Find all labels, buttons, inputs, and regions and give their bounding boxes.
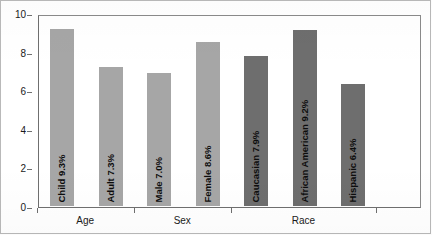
x-axis-group-separator: [376, 208, 377, 213]
bar-chart-figure: 0246810 Child 9.3%Adult 7.3%Male 7.0%Fem…: [0, 0, 432, 235]
y-axis-tick-label: 0: [20, 202, 26, 214]
bar: Male 7.0%: [146, 72, 172, 207]
x-axis-group-label: Sex: [142, 215, 222, 226]
bar: Caucasian 7.9%: [243, 55, 269, 207]
bar-value-label: Hispanic 6.4%: [348, 138, 358, 202]
bar-value-label: African American 9.2%: [300, 99, 310, 202]
y-axis-tick-label: 10: [15, 9, 26, 21]
x-axis-group-separator: [134, 208, 135, 213]
y-axis-tick-mark: [27, 169, 32, 170]
bar-value-label: Child 9.3%: [57, 154, 67, 202]
y-axis-tick-mark: [27, 92, 32, 93]
x-axis-group-separator: [37, 208, 38, 213]
bar-value-label: Caucasian 7.9%: [251, 130, 261, 202]
bar-value-label: Female 8.6%: [203, 145, 213, 202]
y-axis-tick-label: 2: [20, 163, 26, 175]
bar: Hispanic 6.4%: [340, 83, 366, 207]
x-axis-group-label: Race: [264, 215, 344, 226]
y-axis: 0246810: [0, 0, 38, 235]
bar-value-label: Male 7.0%: [154, 157, 164, 202]
x-axis-group-label: Age: [45, 215, 125, 226]
y-axis-tick-mark: [27, 54, 32, 55]
x-axis-group-labels: AgeSexRace: [38, 208, 421, 235]
y-axis-tick-label: 6: [20, 86, 26, 98]
y-axis-tick-label: 4: [20, 125, 26, 137]
y-axis-tick-mark: [27, 131, 32, 132]
bar: Female 8.6%: [195, 41, 221, 207]
y-axis-tick-mark: [27, 208, 32, 209]
bar-value-label: Adult 7.3%: [106, 153, 116, 202]
bar: Adult 7.3%: [98, 66, 124, 207]
y-axis-tick-mark: [27, 15, 32, 16]
bar: Child 9.3%: [49, 28, 75, 207]
bar: African American 9.2%: [292, 29, 318, 207]
x-axis-group-separator: [231, 208, 232, 213]
y-axis-tick-label: 8: [20, 48, 26, 60]
plot-area: Child 9.3%Adult 7.3%Male 7.0%Female 8.6%…: [38, 15, 421, 208]
